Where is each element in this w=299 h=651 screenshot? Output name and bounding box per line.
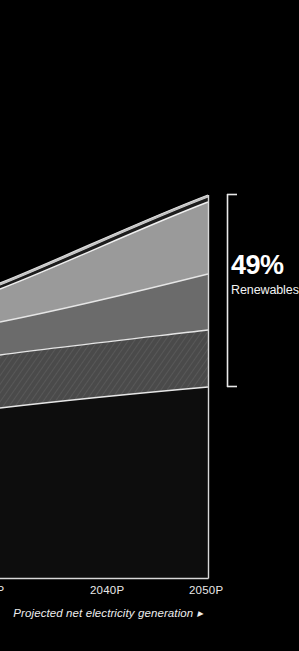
x-tick-label-2040p: 2040P: [90, 584, 124, 596]
x-axis-caption: Projected net electricity generation ▸: [0, 606, 216, 620]
stacked-area-chart: [0, 0, 299, 651]
renewables-percent-value: 49%: [231, 252, 299, 280]
renewables-annotation-label: Renewables: [231, 284, 299, 297]
area-band-1: [0, 387, 208, 578]
x-tick-label-0: 0P: [0, 584, 4, 596]
chart-canvas: 49% Renewables 0P 2040P 2050P Projected …: [0, 0, 299, 651]
renewables-annotation: 49% Renewables: [231, 252, 299, 296]
x-tick-label-2050p: 2050P: [189, 584, 223, 596]
